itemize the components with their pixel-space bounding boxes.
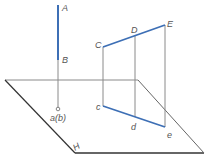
label-A: A [61,3,68,13]
label-D: D [131,25,138,35]
label-e: e [167,130,172,140]
label-B: B [62,55,68,65]
label-C: C [95,40,102,50]
label-ab: a(b) [50,113,66,123]
label-c: c [96,102,101,112]
label-E: E [167,19,174,29]
projecting-plane [103,25,165,127]
line-ab [56,5,60,111]
label-d: d [131,122,137,132]
plane-h [5,80,204,153]
projection-diagram: A B a(b) C D E c d e H [0,0,210,157]
